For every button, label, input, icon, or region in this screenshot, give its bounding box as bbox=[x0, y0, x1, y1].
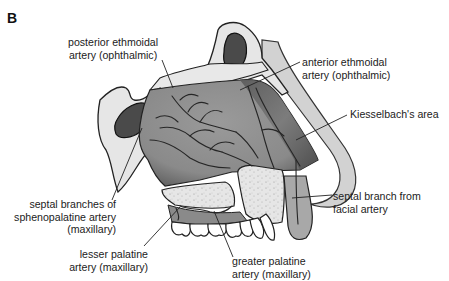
label-greater-palatine-artery: greater palatine artery (maxillary) bbox=[232, 255, 311, 280]
septal-cartilage bbox=[238, 165, 285, 223]
label-line: greater palatine bbox=[232, 255, 311, 268]
label-septal-branch-facial-artery: septal branch from facial artery bbox=[333, 190, 421, 215]
label-line: septal branches of bbox=[6, 198, 116, 211]
label-anterior-ethmoidal-artery: anterior ethmoidal artery (ophthalmic) bbox=[302, 56, 390, 81]
label-line: (maxillary) bbox=[6, 223, 116, 236]
label-line: artery (maxillary) bbox=[232, 268, 311, 281]
label-line: posterior ethmoidal bbox=[68, 36, 158, 49]
panel-letter: B bbox=[7, 10, 17, 26]
label-line: artery (ophthalmic) bbox=[68, 49, 158, 62]
label-line: anterior ethmoidal bbox=[302, 56, 390, 69]
label-kiesselbachs-area: Kiesselbach's area bbox=[350, 108, 439, 121]
label-line: lesser palatine bbox=[52, 248, 148, 261]
label-line: artery (maxillary) bbox=[52, 261, 148, 274]
label-line: sphenopalatine artery bbox=[6, 211, 116, 224]
label-line: facial artery bbox=[333, 203, 421, 216]
label-line: Kiesselbach's area bbox=[350, 108, 439, 121]
label-posterior-ethmoidal-artery: posterior ethmoidal artery (ophthalmic) bbox=[68, 36, 158, 61]
label-septal-branches-sphenopalatine-artery: septal branches of sphenopalatine artery… bbox=[6, 198, 116, 236]
label-lesser-palatine-artery: lesser palatine artery (maxillary) bbox=[52, 248, 148, 273]
columella bbox=[284, 176, 312, 240]
label-line: septal branch from bbox=[333, 190, 421, 203]
label-line: artery (ophthalmic) bbox=[302, 69, 390, 82]
hard-palate bbox=[162, 182, 235, 208]
